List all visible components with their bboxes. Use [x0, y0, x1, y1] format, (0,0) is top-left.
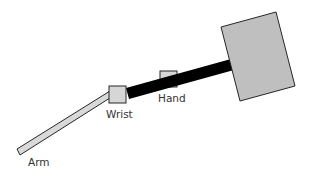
- robot-arm-diagram: Wrist Hand Arm: [0, 0, 313, 171]
- arm-label: Arm: [28, 156, 50, 168]
- diagram-svg: Wrist Hand Arm: [0, 0, 313, 171]
- gripper-block: [221, 12, 295, 101]
- wrist-label: Wrist: [106, 108, 133, 120]
- arm-segment: [17, 91, 113, 155]
- hand-label: Hand: [158, 92, 186, 104]
- wrist-joint: [109, 86, 126, 103]
